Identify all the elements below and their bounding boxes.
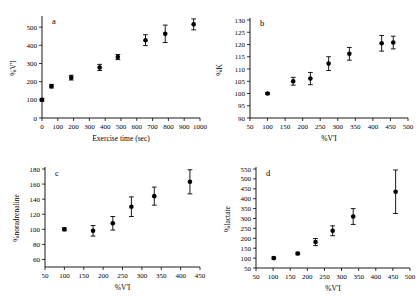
- x-tick-label: 400: [371, 273, 382, 281]
- y-tick-label: 400: [241, 195, 252, 203]
- x-tick-label: 100: [53, 123, 64, 131]
- x-tick-label: 300: [84, 123, 95, 131]
- panel-letter: a: [52, 16, 56, 26]
- y-tick-label: 160: [30, 181, 41, 189]
- y-tick-label: 250: [241, 225, 252, 233]
- y-tick-label: 450: [241, 185, 252, 193]
- panel-letter: d: [266, 168, 271, 178]
- data-point: [143, 38, 148, 43]
- y-tick-label: 500: [241, 175, 252, 183]
- x-tick-label: 100: [59, 272, 70, 280]
- data-point: [97, 65, 102, 70]
- data-point: [116, 55, 121, 60]
- data-point: [40, 98, 45, 103]
- y-tick-label: 120: [30, 211, 41, 219]
- data-point: [313, 240, 318, 245]
- x-tick-label: 250: [117, 272, 128, 280]
- panel-d-plot: 5010015020025030035040045050055050100150…: [210, 151, 420, 303]
- y-axis-title: %V'I: [9, 60, 18, 76]
- data-point: [188, 180, 193, 185]
- x-tick-label: 100: [268, 273, 279, 281]
- data-point: [129, 204, 134, 209]
- data-point: [379, 41, 384, 46]
- y-tick-label: 105: [235, 78, 246, 86]
- y-tick-label: 90: [238, 115, 246, 123]
- y-tick-label: 200: [241, 235, 252, 243]
- panel-c: 6080100120140160180501001502002503003504…: [0, 151, 210, 303]
- y-tick-label: 100: [241, 255, 252, 263]
- x-axis-title: %V'I: [115, 283, 131, 292]
- data-point: [152, 194, 157, 199]
- data-point: [351, 214, 356, 219]
- data-point: [163, 32, 168, 37]
- x-tick-label: 450: [385, 123, 396, 131]
- y-tick-label: 500: [27, 24, 38, 32]
- x-tick-label: 900: [179, 123, 190, 131]
- y-tick-label: 0: [34, 115, 38, 123]
- x-tick-label: 500: [403, 123, 414, 131]
- data-point: [291, 79, 296, 84]
- y-tick-label: 550: [241, 166, 252, 174]
- data-point: [91, 229, 96, 234]
- x-tick-label: 450: [195, 272, 206, 280]
- x-tick-label: 200: [302, 273, 313, 281]
- panel-letter: c: [55, 168, 59, 178]
- data-point: [391, 40, 396, 45]
- x-tick-label: 50: [253, 273, 261, 281]
- data-point: [69, 75, 74, 80]
- y-tick-label: 200: [27, 78, 38, 86]
- x-tick-label: 150: [79, 272, 90, 280]
- y-tick-label: 140: [30, 196, 41, 204]
- data-point: [191, 22, 196, 27]
- data-point: [295, 251, 300, 256]
- x-tick-label: 800: [163, 123, 174, 131]
- y-tick-label: 60: [33, 256, 41, 264]
- panel-a: 0100200300400500010020030040050060070080…: [0, 0, 210, 152]
- data-point: [49, 84, 54, 89]
- x-tick-label: 150: [285, 273, 296, 281]
- y-tick-label: 300: [241, 215, 252, 223]
- x-tick-label: 250: [319, 273, 330, 281]
- data-point: [347, 52, 352, 57]
- y-tick-label: 125: [235, 29, 246, 37]
- x-tick-label: 50: [247, 123, 255, 131]
- y-tick-label: 100: [27, 96, 38, 104]
- x-tick-label: 400: [175, 272, 186, 280]
- x-tick-label: 1000: [193, 123, 208, 131]
- y-tick-label: 150: [241, 245, 252, 253]
- y-tick-label: 350: [241, 205, 252, 213]
- data-point: [271, 256, 276, 261]
- y-tick-label: 130: [235, 17, 246, 25]
- x-axis-title: Exercise time (sec): [92, 134, 150, 143]
- y-tick-label: 50: [244, 265, 252, 273]
- x-tick-label: 500: [405, 273, 416, 281]
- y-tick-label: 400: [27, 42, 38, 50]
- y-tick-label: 95: [238, 102, 246, 110]
- data-point: [62, 227, 67, 232]
- data-point: [393, 189, 398, 194]
- x-tick-label: 350: [350, 123, 361, 131]
- x-tick-label: 350: [156, 272, 167, 280]
- panel-a-plot: 0100200300400500010020030040050060070080…: [0, 0, 210, 152]
- x-tick-label: 450: [388, 273, 399, 281]
- x-tick-label: 200: [98, 272, 109, 280]
- x-tick-label: 200: [297, 123, 308, 131]
- x-tick-label: 700: [147, 123, 158, 131]
- panel-letter: b: [260, 18, 264, 28]
- y-tick-label: 80: [33, 241, 41, 249]
- x-tick-label: 350: [353, 273, 364, 281]
- x-tick-label: 300: [336, 273, 347, 281]
- x-tick-label: 400: [368, 123, 379, 131]
- x-tick-label: 200: [68, 123, 79, 131]
- y-tick-label: 100: [30, 226, 41, 234]
- data-point: [308, 76, 313, 81]
- x-tick-label: 500: [116, 123, 127, 131]
- x-tick-label: 600: [132, 123, 143, 131]
- y-axis-title: %K: [215, 64, 224, 76]
- data-point: [265, 91, 270, 96]
- y-axis-title: %noradrenaline: [12, 194, 21, 242]
- data-point: [330, 228, 335, 233]
- x-tick-label: 300: [333, 123, 344, 131]
- x-tick-label: 50: [42, 272, 50, 280]
- x-axis-title: %V'I: [321, 134, 337, 143]
